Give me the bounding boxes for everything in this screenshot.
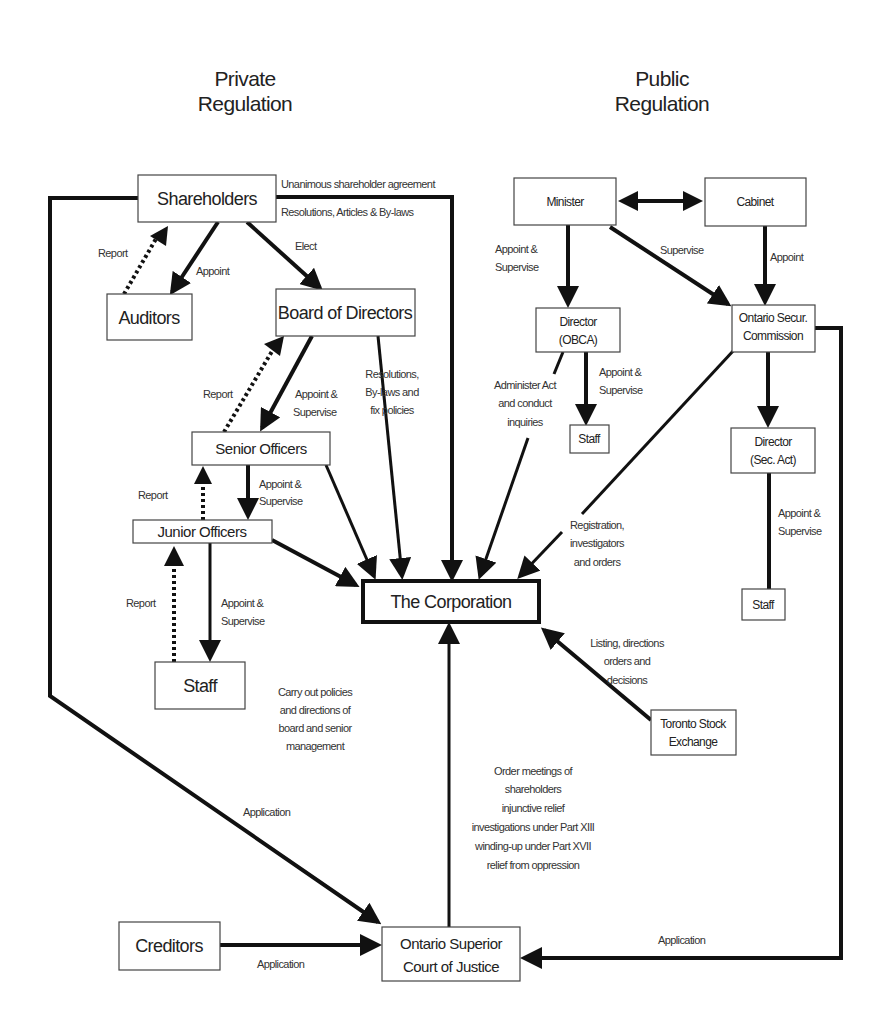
label-tse-listing-3: decisions — [607, 674, 649, 686]
label-elect: Elect — [295, 240, 317, 252]
label-court-orders-2: shareholders — [505, 783, 562, 795]
arrow-auditors-report-shareholders — [124, 232, 160, 294]
arrowhead-report-junior — [164, 546, 184, 566]
svg-text:Auditors: Auditors — [118, 308, 180, 328]
label-report-board: Report — [203, 388, 233, 400]
node-senior-officers: Senior Officers — [192, 432, 330, 465]
label-staff-duties-4: management — [286, 740, 345, 752]
label-osc-registration-2: investigators — [570, 537, 625, 549]
label-obca-administer-3: inquiries — [507, 416, 544, 428]
node-staff-private: Staff — [155, 662, 245, 709]
svg-text:Staff: Staff — [183, 676, 218, 696]
label-board-to-corp: Resolutions, — [365, 368, 419, 380]
label-appoint-auditors: Appoint — [196, 265, 230, 277]
label-obca-staff: Appoint & — [599, 366, 643, 378]
label-appoint-supervise-board: Appoint & — [295, 388, 339, 400]
svg-text:Cabinet: Cabinet — [736, 195, 774, 209]
svg-text:Ontario Superior: Ontario Superior — [400, 935, 503, 952]
label-appoint-supervise-board-2: Supervise — [293, 406, 337, 418]
node-staff-sec: Staff — [742, 589, 785, 620]
label-tse-listing-2: orders and — [604, 655, 651, 667]
arrow-director-obca-to-corporation — [554, 352, 563, 374]
label-report-junior: Report — [126, 597, 156, 609]
node-director-obca: Director (OBCA) — [536, 308, 620, 352]
svg-text:Board of Directors: Board of Directors — [278, 303, 413, 323]
svg-text:Commission: Commission — [743, 329, 803, 343]
label-sec-staff: Appoint & — [778, 507, 822, 519]
label-application-creditors: Application — [257, 958, 305, 970]
svg-text:Exchange: Exchange — [669, 735, 718, 749]
svg-text:Court of Justice: Court of Justice — [403, 958, 499, 975]
label-unanimous-agreement: Unanimous shareholder agreement — [281, 178, 435, 190]
label-sec-staff-2: Supervise — [778, 525, 822, 537]
svg-text:Creditors: Creditors — [135, 936, 203, 956]
label-appoint-supervise-junior: Appoint & — [221, 597, 265, 609]
label-osc-registration-3: and orders — [574, 556, 622, 568]
label-minister-appoint-supervise-2: Supervise — [495, 261, 539, 273]
private-regulation-title-line2: Regulation — [198, 92, 292, 115]
arrow-senior-to-corporation — [326, 465, 374, 576]
regulation-diagram: Private Regulation Public Regulation — [0, 0, 885, 1025]
svg-text:Junior Officers: Junior Officers — [158, 523, 247, 540]
label-obca-administer: Administer Act — [494, 379, 556, 391]
label-staff-duties-2: and directions of — [280, 704, 352, 716]
label-appoint-supervise-senior-2: Supervise — [259, 495, 303, 507]
label-cabinet-appoint: Appoint — [770, 251, 804, 263]
svg-text:Director: Director — [754, 435, 792, 449]
arrow-junior-to-corporation — [272, 540, 356, 585]
svg-text:Ontario Secur.: Ontario Secur. — [739, 311, 808, 325]
arrow-osc-to-corporation-lower — [520, 532, 562, 576]
label-board-to-corp-2: By-laws and — [365, 386, 419, 398]
label-obca-administer-2: and conduct — [498, 397, 552, 409]
label-staff-duties: Carry out policies — [278, 686, 353, 698]
label-appoint-supervise-junior-2: Supervise — [221, 615, 265, 627]
arrow-minister-supervise-osc — [610, 227, 728, 304]
arrowhead-report-shareholders — [150, 226, 168, 246]
label-application-shareholders: Application — [243, 806, 291, 818]
node-shareholders: Shareholders — [138, 175, 276, 222]
svg-text:Shareholders: Shareholders — [157, 189, 257, 209]
node-director-sec-act: Director (Sec. Act) — [731, 428, 815, 473]
public-regulation-title-line2: Regulation — [615, 92, 709, 115]
arrow-shareholders-appoint-auditors — [172, 222, 218, 292]
svg-text:Staff: Staff — [578, 432, 601, 446]
label-appoint-supervise-senior: Appoint & — [259, 478, 303, 490]
arrow-obca-admin-to-corporation — [480, 438, 528, 576]
label-obca-staff-2: Supervise — [599, 384, 643, 396]
svg-text:Staff: Staff — [752, 598, 775, 612]
label-court-orders-3: injunctive relief — [502, 802, 566, 814]
label-report-auditors: Report — [98, 247, 128, 259]
node-staff-obca: Staff — [570, 425, 609, 453]
node-board-of-directors: Board of Directors — [276, 289, 415, 336]
node-ontario-superior-court: Ontario Superior Court of Justice — [382, 927, 520, 981]
svg-text:Director: Director — [559, 315, 597, 329]
label-tse-listing: Listing, directions — [590, 637, 665, 649]
node-the-corporation: The Corporation — [363, 581, 539, 622]
label-court-orders: Order meetings of — [494, 765, 573, 777]
node-minister: Minister — [514, 178, 616, 225]
label-application-osc: Application — [658, 934, 706, 946]
svg-text:Toronto Stock: Toronto Stock — [660, 717, 727, 731]
node-auditors: Auditors — [107, 294, 192, 340]
svg-text:Minister: Minister — [546, 195, 584, 209]
label-report-senior: Report — [138, 489, 168, 501]
arrowhead-report-board — [264, 336, 284, 356]
public-regulation-title: Public — [635, 67, 689, 90]
private-regulation-title: Private — [214, 67, 275, 90]
label-board-to-corp-3: fix policies — [370, 404, 415, 416]
node-cabinet: Cabinet — [705, 178, 806, 226]
label-court-orders-5: winding-up under Part XVII — [474, 840, 591, 852]
label-minister-supervise: Supervise — [660, 244, 704, 256]
node-junior-officers: Junior Officers — [133, 520, 272, 543]
label-court-orders-6: relief from oppression — [487, 859, 580, 871]
svg-text:(OBCA): (OBCA) — [559, 333, 598, 347]
arrowhead-report-senior — [194, 466, 212, 484]
node-ontario-securities-commission: Ontario Secur. Commission — [732, 305, 815, 352]
arrow-shareholders-elect-board — [247, 222, 320, 288]
node-toronto-stock-exchange: Toronto Stock Exchange — [651, 710, 736, 755]
node-creditors: Creditors — [119, 922, 220, 970]
label-staff-duties-3: board and senior — [279, 722, 353, 734]
label-resolutions-articles: Resolutions, Articles & By-laws — [281, 206, 414, 218]
svg-text:(Sec. Act): (Sec. Act) — [750, 453, 797, 467]
svg-text:The Corporation: The Corporation — [390, 592, 511, 612]
